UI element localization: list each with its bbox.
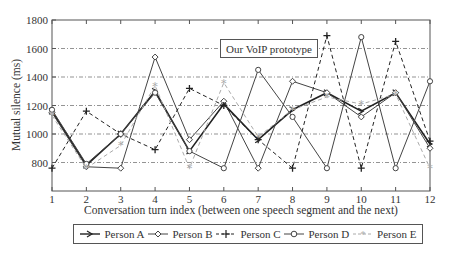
circle-marker-icon [187, 149, 192, 154]
series-person-a [52, 91, 430, 165]
star-marker-icon: * [49, 109, 55, 122]
circle-marker-icon [324, 166, 329, 171]
diamond-marker-icon [255, 165, 261, 171]
arrow-marker-icon [79, 229, 101, 239]
star-marker-icon: * [352, 229, 374, 239]
legend-label: Person D [308, 228, 349, 240]
circle-marker-icon [283, 229, 305, 239]
legend-label: Person E [377, 228, 416, 240]
plus-marker-icon [83, 108, 90, 115]
diamond-marker-icon [152, 54, 158, 60]
star-marker-icon: * [255, 131, 261, 144]
plus-marker-icon [392, 38, 399, 45]
legend: Person A Person B Person C Person D * Pe… [73, 224, 423, 244]
circle-marker-icon [221, 166, 226, 171]
star-marker-icon: * [84, 162, 90, 175]
circle-marker-icon [359, 35, 364, 40]
star-marker-icon: * [187, 162, 193, 175]
svg-text:1200: 1200 [26, 100, 49, 112]
y-axis-title: Mutual silence (ms) [10, 59, 23, 151]
star-marker-icon: * [152, 80, 158, 93]
svg-text:1000: 1000 [26, 128, 49, 140]
svg-text:1600: 1600 [26, 43, 49, 55]
plus-marker-icon [49, 165, 56, 172]
diamond-marker-icon [147, 229, 169, 239]
series-person-b [52, 57, 430, 168]
diamond-marker-icon [290, 78, 296, 84]
legend-item-person-b: Person B [147, 228, 212, 240]
diamond-marker-icon [358, 114, 364, 120]
legend-label: Person A [104, 228, 144, 240]
diamond-marker-icon [118, 165, 124, 171]
plus-marker-icon [323, 32, 330, 39]
svg-text:1400: 1400 [26, 71, 49, 83]
svg-text:12: 12 [425, 193, 436, 205]
svg-text:1800: 1800 [26, 14, 49, 26]
legend-label: Person C [240, 228, 280, 240]
star-marker-icon: * [221, 77, 227, 90]
legend-item-person-e: * Person E [352, 228, 416, 240]
star-marker-icon: * [393, 88, 399, 101]
circle-marker-icon [118, 131, 123, 136]
legend-item-person-c: Person C [215, 228, 280, 240]
plus-marker-icon [186, 85, 193, 92]
plus-marker-icon [152, 146, 159, 153]
star-marker-icon: * [427, 162, 433, 175]
legend-label: Person B [172, 228, 212, 240]
circle-marker-icon [393, 166, 398, 171]
star-marker-icon: * [359, 98, 365, 111]
svg-text:1: 1 [49, 193, 55, 205]
circle-marker-icon [256, 67, 261, 72]
plus-marker-icon [215, 229, 237, 239]
star-marker-icon: * [290, 104, 296, 117]
svg-text:800: 800 [32, 157, 49, 169]
legend-item-person-a: Person A [79, 228, 144, 240]
plus-marker-icon [358, 165, 365, 172]
x-axis-title: Conversation turn index (between one spe… [84, 204, 398, 217]
star-marker-icon: * [118, 139, 124, 152]
legend-item-person-d: Person D [283, 228, 349, 240]
chart-annotation: Our VoIP prototype [220, 39, 318, 58]
circle-marker-icon [427, 79, 432, 84]
star-marker-icon: * [324, 91, 330, 104]
svg-text:*: * [361, 229, 366, 239]
